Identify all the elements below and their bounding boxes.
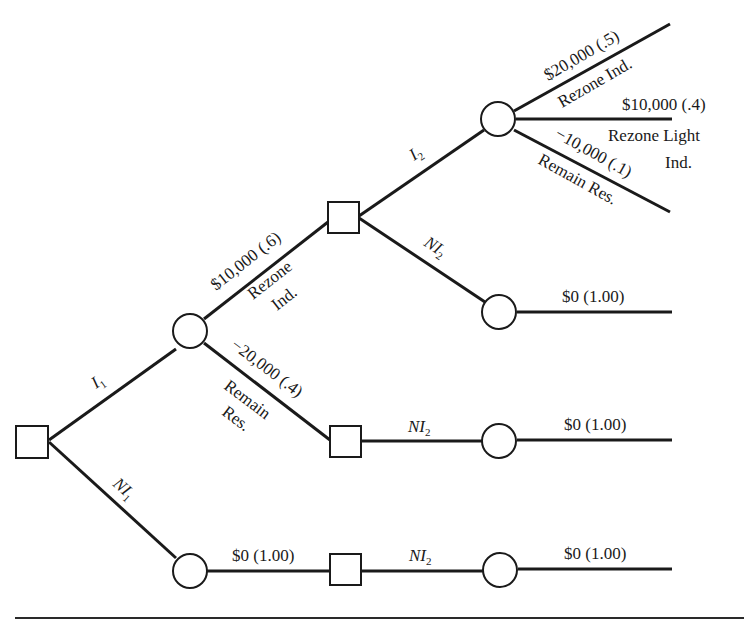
decision-tree-svg: I1 NI1 I2 NI2 NI2 NI2 $10,000 (.6) Rezon… [0,0,744,623]
chance-node-i1 [173,314,207,348]
outcome-value-zero-ni1: $0 (1.00) [232,546,294,565]
branch-label-ni2-lower: NI2 [408,546,432,567]
chance-node-ni1 [173,554,207,588]
decision-node-after-ni1 [330,554,361,585]
decision-node-after-rezone [328,202,359,233]
outcome-value-zero-ni1-end: $0 (1.00) [564,544,626,563]
branch-label-i2: I2 [405,142,427,166]
chance-node-i2 [481,102,515,136]
edge-ni1 [49,442,176,558]
decision-tree-diagram: I1 NI1 I2 NI2 NI2 NI2 $10,000 (.6) Rezon… [0,0,744,623]
edge-i1 [49,349,176,440]
outcome-value-rezone-light-2: $10,000 (.4) [622,95,706,114]
chance-node-ni2-middle [482,424,516,458]
outcome-value-zero-ni2-mid: $0 (1.00) [564,415,626,434]
edge-ni2-upper [359,218,485,302]
outcome-desc-rezone-light-2a: Rezone Light [608,126,700,145]
decision-node-root [16,426,48,458]
branch-label-ni2-middle: NI2 [407,417,431,438]
decision-node-after-remain [330,426,361,457]
chance-node-ni2-upper [482,295,516,329]
branch-label-i1: I1 [87,370,109,394]
outcome-desc-rezone-light-2b: Ind. [665,153,692,172]
outcome-value-zero-ni2-top: $0 (1.00) [562,287,624,306]
edge-i2 [359,130,484,216]
branch-label-ni2-upper: NI2 [419,232,450,262]
chance-node-ni2-lower [483,553,517,587]
